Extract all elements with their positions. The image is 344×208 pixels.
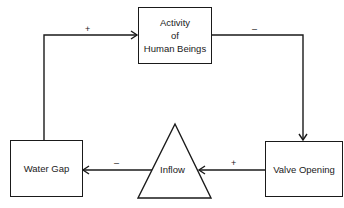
node-label-line: Activity: [160, 16, 190, 29]
node-label: Water Gap: [24, 162, 70, 175]
sign-gap-to-activity: +: [85, 24, 90, 34]
edge-gap-to-activity: [44, 35, 137, 140]
node-label-line: Human Beings: [144, 42, 206, 55]
sign-inflow-to-gap: –: [114, 158, 119, 168]
inflow-triangle: [138, 124, 211, 198]
sign-activity-to-valve: –: [252, 24, 257, 34]
node-water-gap: Water Gap: [10, 140, 83, 197]
sign-valve-to-inflow: +: [231, 158, 236, 168]
node-label-line: of: [171, 29, 179, 42]
node-label: Valve Opening: [273, 163, 335, 176]
edge-activity-to-valve: [211, 35, 303, 140]
node-activity-of-human-beings: Activity of Human Beings: [138, 7, 212, 64]
node-inflow-label: Inflow: [160, 164, 185, 175]
node-valve-opening: Valve Opening: [265, 141, 343, 197]
